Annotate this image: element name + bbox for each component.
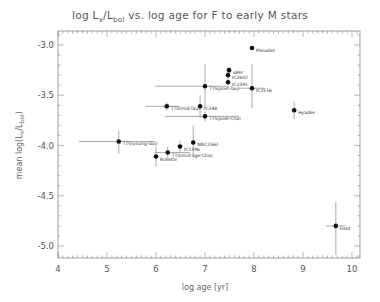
data-point (292, 108, 297, 113)
point-label: IC1396 (184, 147, 200, 152)
point-label: TTS(post-Tau) (208, 86, 240, 91)
point-label: Hyades (298, 110, 315, 115)
data-point (154, 154, 159, 159)
data-point (227, 68, 232, 73)
data-points (116, 46, 338, 228)
ylabel-sub: bol (18, 114, 25, 123)
data-point (334, 224, 339, 229)
point-label: TTS(post-Cha) (208, 116, 241, 121)
point-label: TTS(young-Tau) (122, 141, 158, 146)
data-point (164, 104, 169, 109)
data-point (250, 46, 255, 51)
y-tick-label: -5.0 (37, 241, 54, 251)
ylabel-part: ) (15, 111, 24, 114)
x-tick-label: 10 (347, 264, 358, 274)
y-tick-label: -4.5 (37, 191, 54, 201)
x-tick-label: 8 (251, 264, 256, 274)
x-tick-label: 4 (55, 264, 60, 274)
x-tick-label: 7 (202, 264, 207, 274)
y-tick-label: -3.5 (37, 90, 54, 100)
data-point (165, 150, 170, 155)
data-point (226, 80, 231, 85)
ylabel-part: /L (15, 124, 24, 131)
point-labels: PleiadesαPerIC2602IC2391IC2516TTS(post-T… (122, 48, 351, 231)
ylabel-sub: x (18, 131, 25, 135)
point-label: NGC2362 (197, 142, 219, 147)
x-tick-label: 5 (104, 264, 109, 274)
point-label: IC2516 (256, 88, 272, 93)
y-tick-label: -4.0 (37, 141, 54, 151)
point-label: TTS(mid-Tau) (170, 106, 200, 111)
error-bars (79, 46, 346, 255)
point-label: Pleiades (256, 48, 275, 53)
point-label: IC348 (204, 106, 217, 111)
y-tick-label: -3.0 (37, 40, 54, 50)
x-tick-label: 9 (300, 264, 305, 274)
y-axis-label: mean log(Lx/Lbol) (15, 85, 26, 205)
point-label: IC2602 (232, 75, 248, 80)
x-axis-label: log age [yr] (0, 283, 380, 292)
plot-area: 45678910-3.0-3.5-4.0-4.5-5.0 PleiadesαPe… (0, 0, 380, 302)
point-label: Field (340, 226, 351, 231)
data-point (116, 139, 121, 144)
x-tick-label: 6 (153, 264, 158, 274)
data-point (178, 144, 183, 149)
data-point (203, 114, 208, 119)
data-point (191, 140, 196, 145)
ylabel-part: mean log(L (15, 134, 24, 179)
data-point (226, 73, 231, 78)
data-point (203, 84, 208, 89)
point-label: Rosette (160, 157, 177, 162)
data-point (250, 86, 255, 91)
